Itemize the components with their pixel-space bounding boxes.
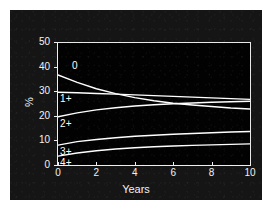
x-tick-mark (173, 162, 174, 166)
x-tick-mark (212, 162, 213, 166)
x-tick-label: 4 (124, 168, 146, 178)
series-label-3plus: 3+ (60, 147, 72, 157)
figure-panel: 010203040500246810 % Years 01+2+3+4+ (10, 10, 262, 200)
x-axis-line (57, 165, 251, 166)
x-tick-label: 2 (85, 168, 107, 178)
x-tick-mark (58, 162, 59, 166)
series-label-1plus: 1+ (60, 94, 72, 104)
series-line-3plus (58, 132, 250, 146)
y-axis-label: % (23, 87, 35, 117)
y-tick-mark (54, 91, 58, 92)
y-tick-mark (54, 42, 58, 43)
y-tick-label: 50 (28, 37, 50, 47)
series-label-0: 0 (72, 61, 78, 71)
series-label-2plus: 2+ (60, 119, 72, 129)
x-tick-mark (96, 162, 97, 166)
y-tick-mark (54, 67, 58, 68)
series-line-0 (58, 75, 250, 109)
x-tick-label: 10 (239, 168, 261, 178)
y-tick-label: 10 (28, 135, 50, 145)
y-tick-mark (54, 140, 58, 141)
series-label-4plus: 4+ (60, 158, 72, 168)
y-tick-label: 40 (28, 62, 50, 72)
x-tick-mark (250, 162, 251, 166)
x-tick-mark (135, 162, 136, 166)
series-line-1plus (58, 92, 250, 99)
x-tick-label: 0 (47, 168, 69, 178)
plot-area (58, 42, 251, 166)
series-curves (58, 43, 250, 166)
x-axis-label: Years (10, 183, 262, 195)
chart-screenshot: 010203040500246810 % Years 01+2+3+4+ (0, 0, 271, 210)
series-line-4plus (58, 144, 250, 156)
x-tick-label: 6 (162, 168, 184, 178)
y-axis-line (57, 42, 58, 166)
x-tick-label: 8 (201, 168, 223, 178)
series-line-2plus (58, 101, 250, 117)
y-tick-mark (54, 116, 58, 117)
